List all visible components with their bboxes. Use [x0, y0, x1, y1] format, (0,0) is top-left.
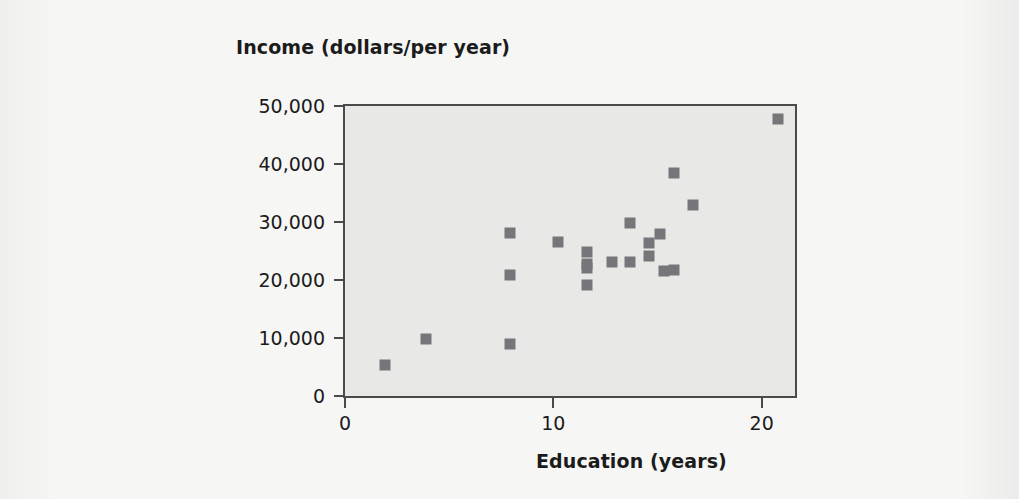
data-point	[504, 228, 515, 239]
y-tick-label: 10,000	[259, 327, 325, 349]
data-point	[504, 269, 515, 280]
data-point	[581, 246, 592, 257]
plot-area: 010,00020,00030,00040,00050,000 01020	[343, 104, 797, 398]
y-tick-label: 30,000	[259, 211, 325, 233]
x-tick-mark	[344, 396, 346, 408]
data-point	[687, 200, 698, 211]
data-point	[606, 257, 617, 268]
data-point	[379, 360, 390, 371]
y-axis-title: Income (dollars/per year)	[236, 36, 510, 58]
y-tick-label: 20,000	[259, 269, 325, 291]
data-point	[421, 334, 432, 345]
x-tick-label: 10	[541, 412, 565, 434]
y-tick-label: 40,000	[259, 153, 325, 175]
y-tick-label: 0	[313, 385, 325, 407]
x-tick-mark	[552, 396, 554, 408]
data-point	[644, 238, 655, 249]
data-point	[625, 257, 636, 268]
y-tick-mark	[334, 221, 345, 223]
data-point	[552, 237, 563, 248]
data-point	[654, 228, 665, 239]
figure-canvas: Income (dollars/per year) 010,00020,0003…	[0, 0, 1019, 499]
data-point	[581, 279, 592, 290]
data-point	[669, 168, 680, 179]
data-point	[581, 263, 592, 274]
y-tick-mark	[334, 337, 345, 339]
y-tick-mark	[334, 279, 345, 281]
data-point	[625, 217, 636, 228]
x-tick-label: 0	[339, 412, 351, 434]
y-tick-mark	[334, 163, 345, 165]
data-points-layer	[345, 106, 795, 396]
y-tick-label: 50,000	[259, 95, 325, 117]
data-point	[504, 339, 515, 350]
data-point	[644, 250, 655, 261]
x-tick-label: 20	[750, 412, 774, 434]
x-tick-mark	[761, 396, 763, 408]
data-point	[773, 114, 784, 125]
y-tick-mark	[334, 105, 345, 107]
data-point	[669, 265, 680, 276]
x-axis-title: Education (years)	[536, 450, 727, 472]
data-point	[658, 266, 669, 277]
